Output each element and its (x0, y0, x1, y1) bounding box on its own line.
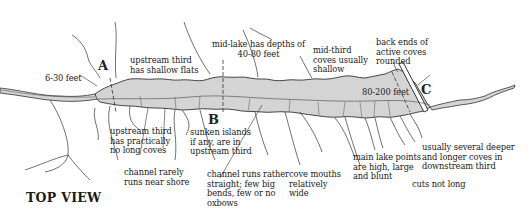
annotation-channel-straight: channel runs rather straight; few big be… (207, 170, 289, 208)
annotation-no-long-coves: upstream third has practically no long c… (110, 127, 172, 156)
outflow-river (430, 85, 515, 110)
annotation-back-ends: back ends of active coves rounded (376, 38, 428, 67)
annotation-upstream-flats: upstream third has shallow flats (130, 56, 198, 75)
annotation-main-points: main lake points are high, large and blu… (353, 153, 421, 182)
annotation-deeper-coves: usually several deeper and longer coves … (422, 143, 515, 172)
diagram-title: TOP VIEW (26, 190, 101, 205)
annotation-channel-rarely: channel rarely runs near shore (124, 168, 189, 187)
depth-label-upstream: 6-30 feet (45, 74, 82, 84)
annotation-sunken-islands: sunken islands if any, are in upstream t… (190, 128, 252, 157)
depth-label-midlake: mid-lake has depths of 40-80 feet (212, 40, 305, 59)
annotation-cuts: cuts not long (412, 180, 466, 190)
annotation-mid-third-coves: mid-third coves usually shallow (313, 46, 368, 75)
lake-diagram: A B C 6-30 feet mid-lake has depths of 4… (0, 0, 530, 219)
inflow-river (0, 88, 98, 101)
marker-b: B (208, 112, 219, 127)
marker-c: C (421, 82, 431, 97)
depth-label-downstream: 80-200 feet (362, 88, 409, 98)
marker-a: A (98, 58, 108, 73)
annotation-cove-mouths: cove mouths relatively wide (289, 170, 341, 199)
